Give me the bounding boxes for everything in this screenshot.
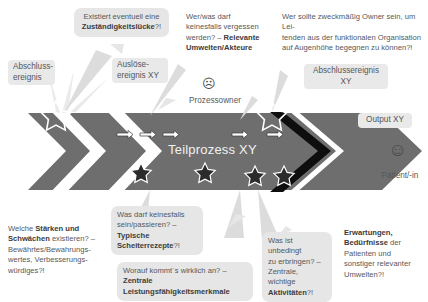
line-4-tail: ?! xyxy=(307,288,313,297)
label-line-1: Abschluss- xyxy=(13,62,50,73)
line-1: Was darf keinesfalls xyxy=(117,210,197,220)
line-2: Schwächen existieren? – xyxy=(8,234,100,244)
line-2: Bedürfnisse der xyxy=(344,238,428,248)
line-2-bold: Typische xyxy=(117,231,149,240)
line-4: sonstiger relevanter xyxy=(344,259,428,269)
label-end-event-right: Abschlussereignis XY xyxy=(304,64,388,89)
line-3: werden? – Relevante xyxy=(186,33,272,43)
line-2: keinesfalls vergessen xyxy=(186,22,272,32)
line-2-plain: existieren? – xyxy=(50,234,95,243)
line-1: Welche Stärken und xyxy=(8,224,100,234)
line-4: Aktivitäten?! xyxy=(268,288,326,298)
line-2-bold: Bedürfnisse xyxy=(344,238,388,247)
callout-zentrale-aktivitaeten: Was ist unbedingt zu erbringen? – Zentra… xyxy=(262,232,332,302)
line-3-tail: ?! xyxy=(174,241,180,250)
line-3: Bewährtes/Bewahrungs- xyxy=(8,245,100,255)
line-4-bold: Aktivitäten xyxy=(268,288,307,297)
line-3: Zentrale, wichtige xyxy=(268,267,326,288)
label-line-2: ereignis XY xyxy=(117,71,163,82)
line-2-bold: Leistungsfähigkeitsmerkmale xyxy=(123,287,230,296)
label-start-event-left: Abschluss- ereignis xyxy=(8,60,55,85)
line-3: Scheiterrezepte?! xyxy=(117,241,197,251)
line-3-bold: Scheiterrezepte xyxy=(117,241,174,250)
line-1: Erwartungen, xyxy=(344,228,428,238)
line-4: Umwelten/Akteure xyxy=(186,43,272,53)
callout-text-plain: Existiert eventuell eine xyxy=(84,12,160,21)
line-2-plain: der xyxy=(388,238,401,247)
line-3-bold: Relevante xyxy=(224,33,260,42)
line-2: Leistungsfähigkeitsmerkmale xyxy=(123,287,247,297)
callout-text-bold: Zuständigkeitslücke xyxy=(82,22,155,31)
band-process-label: Teilprozess XY xyxy=(168,142,257,157)
line-1: Wer/was darf xyxy=(186,12,272,22)
line-1-plain: Welche xyxy=(8,224,35,233)
line-2-plain: sein/passieren? – xyxy=(117,220,177,229)
line-4: wertes, Verbesserungs- xyxy=(8,255,100,265)
line-2: zu erbringen? – xyxy=(268,257,326,267)
callout-zustaendigkeitsluecke: Existiert eventuell eine Zuständigkeitsl… xyxy=(74,8,169,37)
line-1: Was ist unbedingt xyxy=(268,236,326,257)
line-2-bold: Schwächen xyxy=(8,234,50,243)
line-1: Worauf kommt´s wirklich an? – Zentrale xyxy=(123,266,247,287)
line-4-bold: Umwelten/Akteure xyxy=(186,43,252,52)
line-1-bold: Erwartungen, xyxy=(344,228,393,237)
neutral-face-icon: ☹ xyxy=(202,77,216,90)
line-1-bold: Stärken und xyxy=(35,224,79,233)
callout-relevante-umwelten: Wer/was darf keinesfalls vergessen werde… xyxy=(186,12,272,54)
line-3: auf Augenhöhe begegnen zu können?! xyxy=(282,43,428,53)
line-5: Umwelten?! xyxy=(344,270,428,280)
label-line-2: ereignis xyxy=(13,73,50,84)
line-5: würdiges?! xyxy=(8,266,100,276)
line-2: sein/passieren? – Typische xyxy=(117,220,197,241)
line-3-plain: werden? – xyxy=(186,33,224,42)
line-1: Wer sollte zweckmäßig Owner sein, um Lei… xyxy=(282,12,428,33)
callout-owner-frage: Wer sollte zweckmäßig Owner sein, um Lei… xyxy=(282,12,428,54)
line-2: tenden aus der funktionalen Organisation xyxy=(282,33,428,43)
label-patient: Patient/-in xyxy=(372,170,428,181)
callout-scheiterrezepte: Was darf keinesfalls sein/passieren? – T… xyxy=(111,206,203,255)
line-1-bold: Zentrale xyxy=(123,276,153,285)
callout-text-tail: ?! xyxy=(155,22,161,31)
callout-erwartungen-beduerfnisse: Erwartungen, Bedürfnisse der Patienten u… xyxy=(344,228,428,280)
line-3: Patienten und xyxy=(344,249,428,259)
line-1-plain: Worauf kommt´s wirklich an? – xyxy=(123,266,227,275)
callout-staerken-schwaechen: Welche Stärken und Schwächen existieren?… xyxy=(8,224,100,276)
label-process-owner: Prozessowner xyxy=(180,95,250,106)
label-output: Output XY xyxy=(358,113,412,128)
callout-leistungsfaehigkeitsmerkmale: Worauf kommt´s wirklich an? – Zentrale L… xyxy=(117,262,253,301)
smiley-face-icon: ☺ xyxy=(388,140,407,159)
label-line-1: Auslöse- xyxy=(117,60,163,71)
label-trigger-event: Auslöse- ereignis XY xyxy=(112,58,168,83)
